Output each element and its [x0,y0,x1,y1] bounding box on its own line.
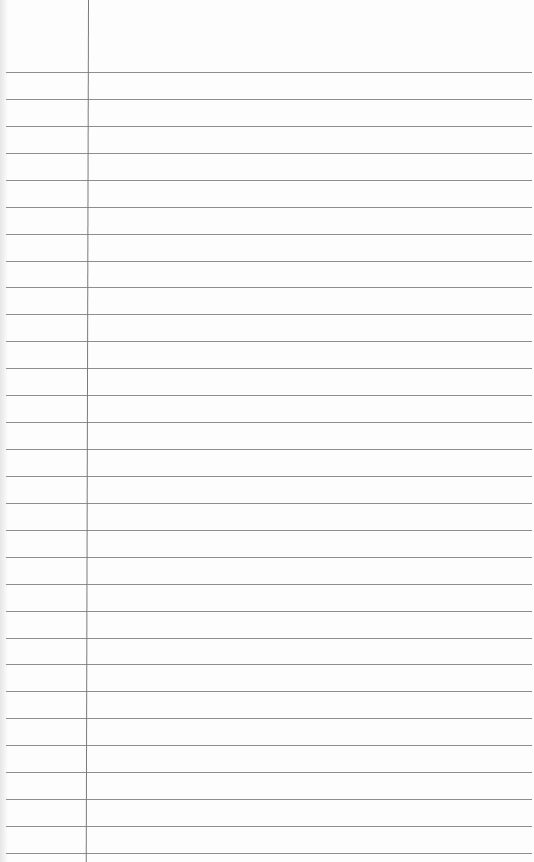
ruled-line [6,584,532,585]
ruled-line [6,126,532,127]
ruled-line [6,772,532,773]
ruled-line [6,314,532,315]
ruled-line [6,664,532,665]
ruled-line [6,261,532,262]
ruled-line [6,153,532,154]
ruled-line [6,395,532,396]
ruled-line [6,207,532,208]
ruled-line [6,287,532,288]
ruled-line [6,638,532,639]
ruled-line [6,799,532,800]
ruled-line [6,503,532,504]
ruled-line [6,745,532,746]
paper-edge-shadow [0,0,8,862]
ruled-line [6,234,532,235]
ruled-line [6,611,532,612]
ruled-line [6,557,532,558]
ruled-line [6,99,532,100]
ruled-line [6,422,532,423]
ruled-line [6,180,532,181]
ruled-line [6,530,532,531]
ruled-line [6,341,532,342]
ruled-line [6,691,532,692]
ruled-line [6,476,532,477]
ruled-paper [0,0,534,862]
ruled-line [6,718,532,719]
margin-line [86,0,89,862]
ruled-line [6,368,532,369]
ruled-line [6,449,532,450]
ruled-line [6,72,532,73]
